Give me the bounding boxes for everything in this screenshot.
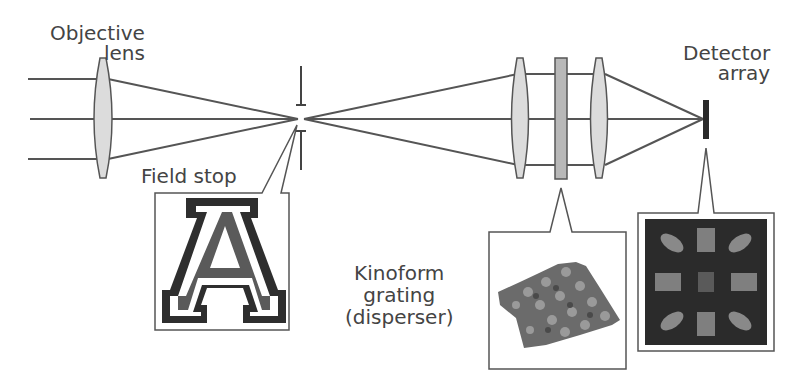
objective-lens-label-line2: lens bbox=[50, 42, 145, 64]
field-stop-label: Field stop bbox=[141, 165, 237, 187]
detector-array-label-line2: array bbox=[683, 62, 770, 84]
collimating-lens-shape bbox=[512, 58, 529, 178]
kinoform-label-line3: (disperser) bbox=[345, 306, 453, 328]
detector-array-label: Detector array bbox=[683, 42, 770, 84]
kinoform-grating-shape bbox=[555, 58, 567, 179]
imaging-lens-shape bbox=[591, 58, 608, 178]
kinoform-label: Kinoform grating (disperser) bbox=[345, 262, 453, 328]
detector-pattern bbox=[645, 219, 767, 345]
objective-lens-label: Objective lens bbox=[50, 22, 145, 64]
kinoform-label-line2: grating bbox=[345, 284, 453, 306]
kinoform-label-line1: Kinoform bbox=[345, 262, 453, 284]
detector-array-shape bbox=[703, 100, 709, 139]
objective-lens-shape bbox=[94, 58, 112, 178]
